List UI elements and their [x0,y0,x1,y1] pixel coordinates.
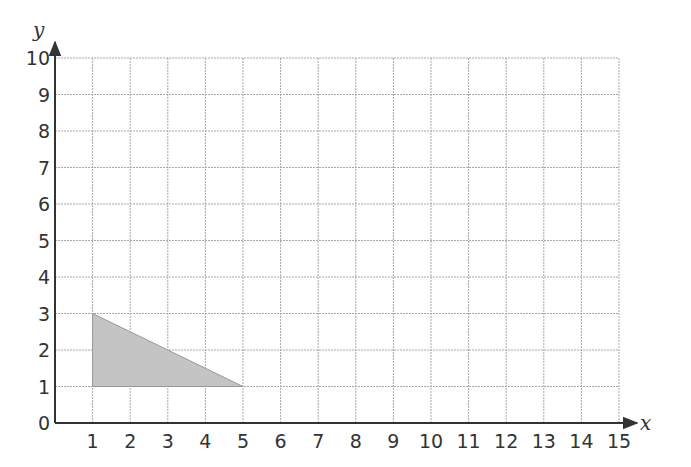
y-tick-label: 0 [38,412,50,434]
x-tick-label: 13 [532,430,556,452]
x-tick-label: 6 [275,430,287,452]
x-tick-label: 2 [124,430,136,452]
y-tick-label: 1 [38,376,50,398]
x-tick-label: 14 [569,430,593,452]
x-tick-label: 11 [457,430,481,452]
y-tick-label: 8 [38,120,50,142]
y-tick-label: 7 [38,157,50,179]
x-tick-label: 15 [607,430,631,452]
y-tick-label: 2 [38,339,50,361]
x-tick-label: 9 [387,430,399,452]
y-tick-label: 3 [38,303,50,325]
x-tick-label: 1 [87,430,99,452]
coordinate-grid-chart: 123456789101112131415 012345678910 x y [0,0,691,467]
x-tick-label: 12 [494,430,518,452]
x-tick-label: 7 [312,430,324,452]
x-tick-label: 4 [199,430,211,452]
x-tick-label: 10 [419,430,443,452]
y-tick-labels: 012345678910 [26,47,50,434]
x-tick-label: 5 [237,430,249,452]
y-tick-label: 6 [38,193,50,215]
x-tick-label: 8 [350,430,362,452]
x-tick-label: 3 [162,430,174,452]
y-tick-label: 9 [38,84,50,106]
y-axis-label: y [32,18,45,42]
y-tick-label: 10 [26,47,50,69]
y-tick-label: 5 [38,230,50,252]
x-tick-labels: 123456789101112131415 [87,430,632,452]
y-tick-label: 4 [38,266,50,288]
x-axis-label: x [640,411,651,435]
